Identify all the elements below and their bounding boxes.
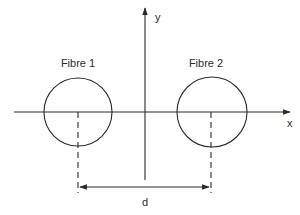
fibre-2-label: Fibre 2 (189, 57, 223, 69)
y-axis-label: y (155, 11, 161, 23)
fibre-1-label: Fibre 1 (61, 57, 95, 69)
x-axis-label: x (287, 117, 293, 129)
distance-label: d (142, 196, 148, 208)
fibre-diagram: x y Fibre 1 Fibre 2 d (0, 0, 300, 215)
